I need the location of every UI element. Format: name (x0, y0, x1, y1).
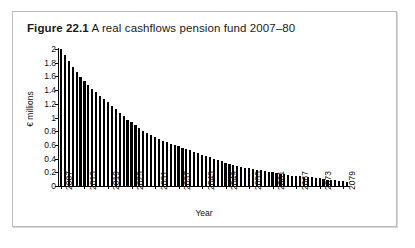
x-axis-tick-mark (202, 186, 203, 189)
bar (334, 180, 336, 186)
bar (224, 163, 226, 186)
bar (248, 168, 250, 186)
x-axis-tick-mark (61, 186, 62, 189)
x-axis-tick-mark (155, 186, 156, 189)
bar (60, 49, 62, 186)
x-axis-tick-label: 2079 (347, 171, 357, 190)
bar (154, 137, 156, 186)
bar (174, 145, 176, 186)
x-axis-tick-label: 2061 (276, 171, 286, 190)
x-axis-tick-mark (226, 186, 227, 189)
bar (264, 171, 266, 186)
bar (291, 176, 293, 186)
bar (99, 96, 101, 186)
x-axis-tick-label: 2031 (159, 171, 169, 190)
x-axis-tick-label: 2037 (182, 171, 192, 190)
bar (123, 116, 125, 186)
bar (107, 102, 109, 186)
x-axis-tick-mark (320, 186, 321, 189)
x-axis-tick-mark (132, 186, 133, 189)
y-axis-tick-mark (55, 63, 58, 64)
bar (76, 72, 78, 186)
bar (126, 120, 128, 186)
x-axis-tick-label: 2055 (253, 171, 263, 190)
bar (240, 167, 242, 186)
bar (295, 176, 297, 186)
bar (287, 175, 289, 186)
x-axis-title: Year (59, 208, 349, 218)
x-axis-tick-mark (179, 186, 180, 189)
bar (79, 77, 81, 186)
bar (338, 181, 340, 186)
bar (68, 61, 70, 186)
bar (170, 144, 172, 186)
x-axis-tick-mark (84, 186, 85, 189)
y-axis-tick-mark (55, 104, 58, 105)
x-axis-tick-mark (249, 186, 250, 189)
x-axis-tick-label: 2049 (229, 171, 239, 190)
bar (271, 172, 273, 186)
bar (244, 168, 246, 186)
y-axis-title: € millions (25, 74, 35, 144)
bar (150, 135, 152, 186)
y-axis-tick-mark (55, 131, 58, 132)
bar (193, 152, 195, 186)
x-axis-tick-mark (343, 186, 344, 189)
bar (201, 155, 203, 187)
x-axis-tick-mark (108, 186, 109, 189)
chart: € millions 00.20.40.60.811.21.41.61.8220… (13, 12, 398, 228)
bar (130, 122, 132, 186)
bar (319, 178, 321, 186)
bar (315, 178, 317, 186)
y-axis-tick-mark (55, 145, 58, 146)
x-axis-tick-label: 2073 (323, 171, 333, 190)
x-axis-tick-label: 2007 (64, 171, 74, 190)
x-axis-tick-label: 2019 (111, 171, 121, 190)
y-axis-tick-mark (55, 76, 58, 77)
bar (197, 153, 199, 186)
bar (146, 133, 148, 186)
bar (83, 81, 85, 186)
x-axis-tick-label: 2025 (135, 171, 145, 190)
x-axis-tick-mark (296, 186, 297, 189)
figure-container: Figure 22.1 A real cashflows pension fun… (12, 11, 397, 227)
bar (268, 172, 270, 186)
bar (64, 55, 66, 186)
bar (72, 67, 74, 186)
x-axis-tick-label: 2043 (206, 171, 216, 190)
bar (311, 177, 313, 186)
bar (103, 99, 105, 186)
y-axis-tick-mark (55, 49, 58, 50)
y-axis-tick-mark (55, 90, 58, 91)
y-axis-tick-mark (55, 159, 58, 160)
x-axis-tick-mark (273, 186, 274, 189)
bar (177, 146, 179, 186)
x-axis-tick-label: 2013 (88, 171, 98, 190)
y-axis-tick-mark (55, 172, 58, 173)
y-axis-tick-mark (55, 118, 58, 119)
plot-area: 00.20.40.60.811.21.41.61.822007201320192… (59, 49, 349, 186)
y-axis-tick-mark (55, 186, 58, 187)
x-axis-tick-label: 2067 (300, 171, 310, 190)
bar (217, 160, 219, 186)
bar (221, 161, 223, 186)
